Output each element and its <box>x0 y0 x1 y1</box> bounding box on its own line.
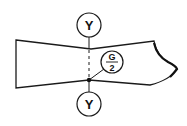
top-marker-label: Y <box>85 18 94 33</box>
pattern-outline <box>16 40 177 88</box>
bottom-y-marker: Y <box>77 92 101 116</box>
bottom-marker-label: Y <box>85 97 94 112</box>
sleeve-cap-curve <box>154 43 177 77</box>
g-half-denominator: 2 <box>109 63 114 73</box>
g-half-numerator: G <box>108 52 115 62</box>
pattern-diagram: Y Y G 2 <box>0 0 187 126</box>
g-half-marker: G 2 <box>101 51 123 73</box>
leader-line <box>89 69 104 80</box>
top-y-marker: Y <box>77 13 101 37</box>
